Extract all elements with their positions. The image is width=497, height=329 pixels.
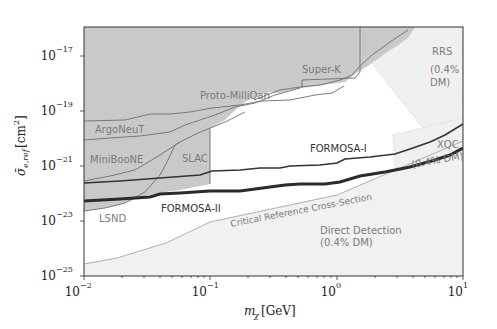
ytick-exp: −21 — [56, 155, 73, 164]
exclusion-plot: 10 −25 10 −23 10 −21 10 −19 10 −17 10 −2… — [0, 0, 497, 329]
xtick-label: 10 — [321, 285, 336, 299]
ytick-exp: −25 — [56, 265, 73, 274]
rrs-label: RRS — [432, 46, 452, 57]
rrs-dm-label: (0.4% — [430, 64, 459, 75]
xtick-exp: −2 — [80, 281, 92, 290]
slac-label: SLAC — [182, 153, 208, 164]
svg-text:χ: χ — [253, 311, 260, 320]
proto-milliqan-label: Proto-MilliQan — [200, 90, 270, 101]
svg-text:[GeV]: [GeV] — [261, 304, 296, 318]
ytick-label: 10 — [41, 269, 56, 283]
xqc-label: XQC — [437, 139, 459, 150]
ytick-exp: −23 — [56, 210, 73, 219]
y-ticks — [80, 56, 84, 276]
formosa-ii-label: FORMOSA-II — [161, 203, 221, 214]
rrs-dm-label-2: DM) — [430, 77, 450, 88]
direct-detection-label: Direct Detection — [320, 225, 402, 236]
x-ticks — [84, 276, 463, 280]
svg-text:]: ] — [14, 115, 28, 120]
xtick-exp: −1 — [207, 281, 219, 290]
x-tick-labels: 10 −2 10 −1 10 0 10 1 — [65, 281, 468, 299]
xtick-label: 10 — [192, 285, 207, 299]
x-axis-label: m χ [GeV] — [244, 304, 296, 320]
ytick-label: 10 — [41, 214, 56, 228]
ytick-exp: −19 — [56, 100, 73, 109]
svg-text:e,ref: e,ref — [21, 147, 30, 168]
lsnd-label: LSND — [99, 213, 126, 224]
ytick-label: 10 — [41, 49, 56, 63]
svg-text:[cm: [cm — [14, 125, 28, 148]
formosa-i-label: FORMOSA-I — [310, 143, 367, 154]
ytick-label: 10 — [41, 159, 56, 173]
xtick-exp: 1 — [463, 281, 468, 290]
ytick-exp: −17 — [56, 45, 73, 54]
xtick-label: 10 — [65, 285, 80, 299]
xtick-exp: 0 — [336, 281, 341, 290]
direct-detection-dm-label: (0.4% DM) — [320, 237, 373, 248]
y-axis-label: σ̄ e,ref [cm 2 ] — [12, 115, 30, 176]
miniboone-label: MiniBooNE — [90, 154, 143, 165]
xtick-label: 10 — [448, 285, 463, 299]
argoneut-label: ArgoNeuT — [95, 124, 145, 135]
superk-label: Super-K — [302, 64, 341, 75]
y-tick-labels: 10 −25 10 −23 10 −21 10 −19 10 −17 — [41, 45, 73, 283]
ytick-label: 10 — [41, 104, 56, 118]
